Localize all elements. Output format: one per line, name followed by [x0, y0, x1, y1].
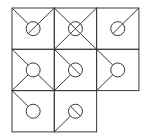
connector-line-br	[38, 75, 54, 91]
connector-line-tr	[123, 8, 139, 24]
tile-1-1	[54, 49, 96, 90]
connector-line-br	[80, 34, 96, 50]
inner-backslash-icon	[71, 106, 81, 116]
connector-line-bl	[54, 34, 70, 50]
connector-line-bl	[97, 75, 113, 91]
inner-slash-icon	[113, 24, 123, 34]
node-circle	[26, 63, 40, 77]
connector-line-tr	[38, 8, 54, 24]
connector-line-bl	[12, 75, 28, 91]
connector-line-tr	[80, 8, 96, 24]
tile-2-0	[12, 91, 54, 132]
tile-2-1	[54, 91, 96, 132]
tile-1-0	[12, 49, 54, 90]
connector-line-tl	[12, 49, 28, 65]
node-circle	[111, 63, 125, 77]
tile-0-2	[97, 8, 139, 49]
connector-line-tl	[12, 8, 28, 24]
connector-line-tl	[97, 49, 113, 65]
tile-grid-canvas	[0, 0, 146, 139]
tile-grid-diagram	[0, 0, 146, 139]
inner-backslash-icon	[71, 65, 81, 75]
connector-line-tl	[54, 49, 70, 65]
connector-line-tl	[54, 8, 70, 24]
node-circle	[26, 104, 40, 118]
tile-0-1	[54, 8, 96, 49]
tile-0-0	[12, 8, 54, 49]
connector-line-bl	[54, 116, 70, 132]
connector-line-bl	[54, 75, 70, 91]
connector-line-tl	[12, 91, 28, 107]
inner-slash-icon	[28, 24, 38, 34]
tile-1-2	[97, 49, 139, 90]
